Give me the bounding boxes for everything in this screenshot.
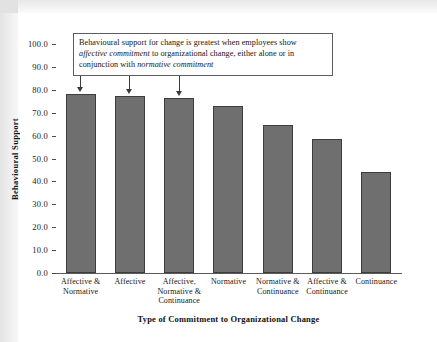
y-axis-tick-90-0: 90.0 (32, 62, 56, 72)
annotation-callout: Behavioural support for change is greate… (73, 33, 333, 76)
bar-slot (352, 44, 401, 273)
y-axis-title: Behavioural Support (8, 44, 22, 274)
bar[interactable] (361, 172, 391, 273)
bar[interactable] (66, 94, 96, 273)
chart-page: Behavioural Support 100.090.080.070.060.… (0, 0, 437, 342)
annotation-emphasis: normative commitment (137, 60, 213, 69)
bar-slot (302, 44, 351, 273)
annotation-text: Behavioural support for change is greate… (79, 38, 297, 47)
y-axis-tick-20-0: 20.0 (32, 222, 56, 232)
bar-series (56, 44, 401, 273)
arrow-head-icon (176, 91, 182, 96)
y-axis-tick-70-0: 70.0 (32, 108, 56, 118)
bar[interactable] (312, 139, 342, 273)
page-margin-top (0, 0, 437, 13)
bar-slot (253, 44, 302, 273)
x-axis-line (56, 273, 402, 274)
bar[interactable] (263, 125, 293, 273)
page-corner (0, 0, 18, 13)
x-axis-tick-label: Continuance (345, 277, 407, 287)
arrow-shaft (179, 76, 180, 91)
y-axis-tick-50-0: 50.0 (32, 154, 56, 164)
arrow-head-icon (126, 89, 132, 94)
arrow-shaft (80, 76, 81, 87)
plot-area: 100.090.080.070.060.050.040.030.020.010.… (56, 44, 401, 273)
annotation-arrow (125, 76, 134, 94)
y-axis-tick-30-0: 30.0 (32, 199, 56, 209)
arrow-shaft (129, 76, 130, 89)
annotation-arrow (76, 76, 85, 92)
x-axis-tick-labels: Affective & NormativeAffectiveAffective,… (56, 277, 401, 313)
annotation-arrow (175, 76, 184, 96)
arrow-head-icon (77, 87, 83, 92)
y-axis-tick-100-0: 100.0 (28, 39, 56, 49)
bar-slot (204, 44, 253, 273)
bar[interactable] (213, 106, 243, 273)
bar[interactable] (115, 96, 145, 273)
y-axis-tick-60-0: 60.0 (32, 131, 56, 141)
y-axis-tick-40-0: 40.0 (32, 176, 56, 186)
y-axis-tick-10-0: 10.0 (32, 245, 56, 255)
bar[interactable] (164, 98, 194, 273)
annotation-emphasis: affective commitment (79, 49, 150, 58)
x-axis-title: Type of Commitment to Organizational Cha… (56, 314, 401, 324)
y-axis-tick-80-0: 80.0 (32, 85, 56, 95)
